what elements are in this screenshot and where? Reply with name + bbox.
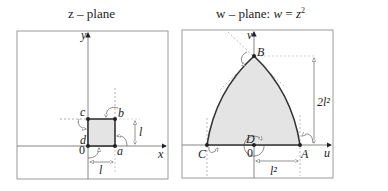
vertex-A-label: A [300,147,309,161]
w-origin-label: 0 [247,146,253,160]
diagram-canvas: y x 0 a b c d l l [0,0,388,191]
vertex-C-label: C [198,147,207,161]
dimension-vertical-label-2l2: 2l² [317,95,330,109]
angle-arc-b [106,107,118,117]
dimension-horizontal-label-l2: l² [270,164,277,178]
angle-arc-A [302,134,313,143]
vertex-D-label: D [245,132,255,146]
u-axis-label: u [324,146,330,160]
vertex-b-label: b [118,106,124,120]
angle-arc-C [209,147,218,152]
vertex-a-label: a [117,144,123,158]
vertex-B [252,54,256,58]
vertex-c [86,117,90,121]
y-axis-label: y [80,28,87,42]
v-axis-label: v [247,28,253,42]
z-plane-panel: y x 0 a b c d l l [17,28,168,179]
vertex-d-label: d [80,133,87,147]
vertex-b [113,117,117,121]
angle-arc-c [78,119,86,129]
vertex-c-label: c [80,105,86,119]
dimension-horizontal-label: l [99,163,103,177]
x-axis-label: x [157,147,164,161]
z-plane-frame [17,31,168,179]
angle-arc-d [88,148,99,158]
vertex-d [86,144,90,148]
conformal-mapping-figure: z – plane w – plane: w = z2 [0,0,388,191]
w-plane-panel: v u 0 A B C D l² 2l² [182,28,333,178]
square-region [88,119,115,146]
dimension-vertical-label: l [139,125,143,139]
vertex-B-label: B [257,45,265,59]
